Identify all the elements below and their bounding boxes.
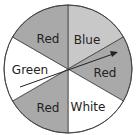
label-white: White (71, 100, 106, 114)
label-red-right: Red (94, 66, 117, 80)
label-blue: Blue (74, 33, 101, 47)
spinner-diagram: Blue Red White Red Green Red (0, 0, 137, 135)
label-red-bottom: Red (37, 101, 60, 115)
label-green: Green (12, 63, 48, 77)
label-red-top: Red (37, 32, 60, 46)
